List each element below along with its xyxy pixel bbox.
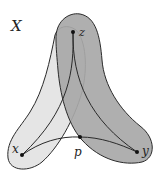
label-y: y xyxy=(141,144,149,158)
dark-region xyxy=(56,14,152,163)
label-z: z xyxy=(78,26,85,39)
space-label: X xyxy=(10,17,23,35)
label-x: x xyxy=(12,142,19,156)
point-p xyxy=(78,135,82,139)
label-p: p xyxy=(74,145,82,159)
point-y xyxy=(135,150,139,154)
point-z xyxy=(71,30,75,34)
point-x xyxy=(20,153,24,157)
diagram-canvas: X z x y p xyxy=(0,0,163,184)
